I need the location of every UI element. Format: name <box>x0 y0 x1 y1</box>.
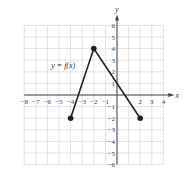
y-axis-label: y <box>114 5 119 14</box>
y-tick-label: −5 <box>108 150 116 158</box>
x-tick-label: −2 <box>90 98 98 106</box>
y-tick-label: −1 <box>108 103 116 111</box>
y-tick-label: 4 <box>112 45 116 53</box>
y-tick-label: −4 <box>108 138 116 146</box>
point-marker <box>68 115 74 121</box>
x-tick-label: −3 <box>78 98 86 106</box>
y-tick-label: 5 <box>112 34 116 42</box>
point-marker <box>91 46 97 52</box>
y-axis-arrow-icon <box>115 14 119 20</box>
y-tick-label: 3 <box>112 57 116 65</box>
y-tick-label: 6 <box>112 22 116 30</box>
y-tick-label: −6 <box>108 161 116 169</box>
x-tick-label: 2 <box>138 98 142 106</box>
x-tick-label: 3 <box>150 98 154 106</box>
x-tick-label: −5 <box>55 98 63 106</box>
y-tick-label: −3 <box>108 126 116 134</box>
function-label: y = f(x) <box>50 61 75 70</box>
y-tick-label: −2 <box>108 115 116 123</box>
x-axis-label: x <box>174 91 179 100</box>
x-axis-arrow-icon <box>168 93 174 97</box>
x-tick-label: 4 <box>162 98 166 106</box>
x-tick-label: −4 <box>67 98 75 106</box>
point-marker <box>137 115 143 121</box>
x-tick-label: −8 <box>20 98 28 106</box>
function-graph: xy−8−7−6−5−4−3−2−1234654321−1−2−3−4−5−6y… <box>0 0 185 178</box>
x-tick-label: −7 <box>32 98 40 106</box>
x-tick-label: −6 <box>44 98 52 106</box>
